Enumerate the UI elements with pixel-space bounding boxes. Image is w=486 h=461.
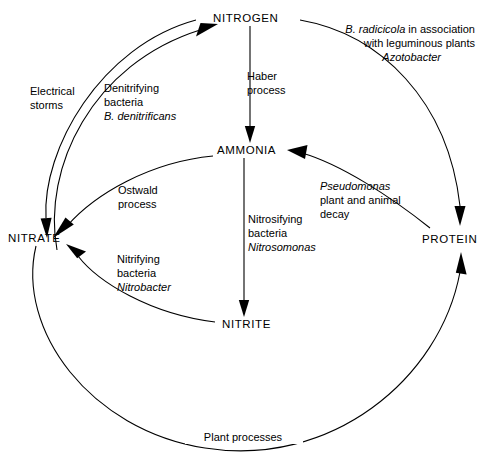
arc-plant-processes [33, 246, 460, 451]
flow-nitrate-to-protein [33, 246, 467, 451]
annotation-pseudomonas: Pseudomonas plant and animal decay [320, 180, 401, 220]
nitrosifying-species: Nitrosomonas [248, 241, 316, 253]
pseudomonas-line-1: plant and animal [320, 194, 401, 206]
annotation-electrical-storms: Electrical storms [30, 85, 75, 111]
denitrifying-line-1: Denitrifying [104, 82, 159, 94]
arrowhead-into-ammonia-decay [287, 145, 308, 159]
nitrifying-species: Nitrobacter [117, 281, 172, 293]
denitrifying-species: B. denitrificans [104, 110, 177, 122]
annotation-ostwald: Ostwald process [118, 184, 158, 210]
node-label-nitrogen: NITROGEN [213, 12, 279, 24]
rhizobium-species-1: B. radicicola [345, 23, 405, 35]
arrowhead-into-protein-bottom [456, 252, 467, 275]
annotation-haber: Haber process [247, 70, 286, 96]
node-label-nitrite: NITRITE [222, 318, 271, 330]
arrowhead-into-nitrate-nitrifying [66, 244, 86, 258]
haber-line-1: Haber [247, 70, 277, 82]
haber-line-2: process [247, 84, 286, 96]
cycle-svg-canvas: NITROGEN AMMONIA NITRATE NITRITE PROTEIN… [0, 0, 486, 461]
arrowhead-into-nitrite [239, 300, 249, 317]
arrowhead-into-protein-top [455, 206, 466, 226]
nitrogen-cycle-diagram: NITROGEN AMMONIA NITRATE NITRITE PROTEIN… [0, 0, 486, 461]
ostwald-line-2: process [118, 198, 157, 210]
nitrifying-line-1: Nitrifying [117, 253, 160, 265]
annotation-denitrifying: Denitrifying bacteria B. denitrificans [104, 82, 177, 122]
pseudomonas-species: Pseudomonas [320, 180, 391, 192]
node-label-ammonia: AMMONIA [217, 144, 276, 156]
nitrosifying-line-1: Nitrosifying [248, 213, 302, 225]
node-label-nitrate: NITRATE [8, 232, 61, 244]
pseudomonas-line-2: decay [320, 208, 350, 220]
node-label-protein: PROTEIN [422, 233, 477, 245]
electrical-storms-line-2: storms [30, 99, 64, 111]
annotation-nitrifying: Nitrifying bacteria Nitrobacter [117, 253, 172, 293]
arrowhead-into-nitrogen [196, 23, 218, 37]
electrical-storms-line-1: Electrical [30, 85, 75, 97]
rhizobium-line-2: with leguminous plants [363, 37, 476, 49]
rhizobium-line-1-rest: in association [405, 23, 475, 35]
flow-ammonia-to-nitrate [53, 156, 213, 238]
nitrifying-line-2: bacteria [117, 267, 157, 279]
ostwald-line-1: Ostwald [118, 184, 158, 196]
arrowhead-into-ammonia [245, 126, 255, 143]
plant-processes-label: Plant processes [204, 431, 283, 443]
nitrosifying-line-2: bacteria [248, 227, 288, 239]
rhizobium-species-2: Azotobacter [381, 51, 442, 63]
annotation-nitrosifying: Nitrosifying bacteria Nitrosomonas [248, 213, 316, 253]
denitrifying-line-2: bacteria [104, 96, 144, 108]
rhizobium-line-1: B. radicicola in association [345, 23, 475, 35]
flow-nitrate-to-nitrogen [54, 23, 218, 250]
annotation-plant-processes: Plant processes [185, 428, 303, 444]
annotation-rhizobium: B. radicicola in association with legumi… [345, 23, 475, 63]
